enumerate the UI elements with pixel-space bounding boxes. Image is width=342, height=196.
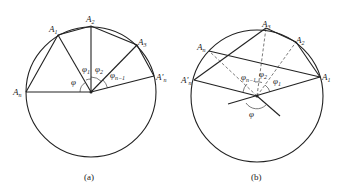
label-phi1-b: φ1 [273,76,281,87]
labels-b: An A'n A3 A2 A1 φn−1 φ2 φ1 φ (b) [180,19,331,182]
label-phi: φ [71,77,76,87]
label-A2-b: A2 [295,35,305,46]
label-A2: A2 [85,14,95,25]
label-phi2-b: φ2 [259,69,267,80]
figure-canvas: An A1 A2 A3 A'n φ φ1 φ2 φn−1 (a) An A'n [0,0,342,196]
label-Anp: A'n [155,72,166,83]
diagram-b [191,28,323,162]
label-phi2: φ2 [95,64,103,75]
label-A3-b: A3 [261,19,271,30]
caption-a: (a) [84,172,94,182]
label-An-b: An [196,42,206,53]
label-A3: A3 [137,37,147,48]
diagram-a [26,26,156,157]
label-Anp-b: A'n [180,75,191,86]
label-phi1: φ1 [82,64,90,75]
label-A1-b: A1 [321,72,331,83]
label-phin1: φn−1 [110,70,125,81]
caption-b: (b) [251,172,262,182]
label-phin1-b: φn−1 [241,72,256,83]
label-A1: A1 [48,24,58,35]
label-An: An [12,87,22,98]
label-phi-b: φ [249,109,254,119]
